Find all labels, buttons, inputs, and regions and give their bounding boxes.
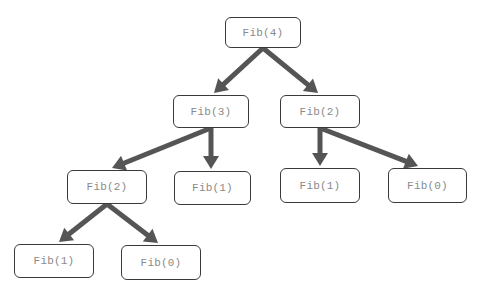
edge-line bbox=[107, 204, 148, 236]
edge-arrow-n1-to-n4 bbox=[203, 128, 219, 169]
node-label: Fib(4) bbox=[243, 27, 284, 39]
node-label: Fib(1) bbox=[300, 180, 341, 192]
node-fib-2-left: Fib(2) bbox=[67, 170, 147, 204]
edge-line bbox=[68, 204, 107, 235]
node-fib-2-right: Fib(2) bbox=[280, 95, 360, 128]
edge-line bbox=[123, 128, 211, 164]
node-label: Fib(3) bbox=[191, 106, 232, 118]
edge-arrow-n0-to-n2 bbox=[263, 48, 318, 93]
node-label: Fib(0) bbox=[141, 257, 182, 269]
edge-line bbox=[223, 48, 263, 85]
edge-arrow-n0-to-n1 bbox=[214, 48, 263, 93]
node-fib-1-from-fib-3: Fib(1) bbox=[174, 171, 251, 205]
node-label: Fib(1) bbox=[192, 182, 233, 194]
arrowhead-icon bbox=[203, 156, 219, 169]
edge-arrow-n3-to-n7 bbox=[59, 204, 107, 242]
node-label: Fib(1) bbox=[34, 255, 75, 267]
node-fib-0-from-fib-2-left: Fib(0) bbox=[121, 245, 201, 280]
edge-arrow-n1-to-n3 bbox=[112, 128, 211, 171]
node-fib-4-root: Fib(4) bbox=[225, 17, 301, 48]
edge-arrow-n2-to-n5 bbox=[312, 128, 328, 166]
node-fib-3: Fib(3) bbox=[173, 95, 249, 128]
fibonacci-recursion-tree: Fib(4) Fib(3) Fib(2) Fib(2) Fib(1) Fib(1… bbox=[0, 0, 481, 292]
edge-line bbox=[320, 128, 407, 162]
node-label: Fib(2) bbox=[87, 181, 128, 193]
edge-arrow-n2-to-n6 bbox=[320, 128, 418, 169]
node-fib-1-from-fib-2-right: Fib(1) bbox=[280, 168, 360, 203]
edge-line bbox=[263, 48, 309, 85]
node-label: Fib(2) bbox=[300, 106, 341, 118]
node-fib-1-from-fib-2-left: Fib(1) bbox=[14, 244, 94, 278]
node-fib-0-from-fib-2-right: Fib(0) bbox=[388, 168, 467, 203]
edge-arrow-n3-to-n8 bbox=[107, 204, 158, 243]
arrowhead-icon bbox=[312, 153, 328, 166]
node-label: Fib(0) bbox=[407, 180, 448, 192]
